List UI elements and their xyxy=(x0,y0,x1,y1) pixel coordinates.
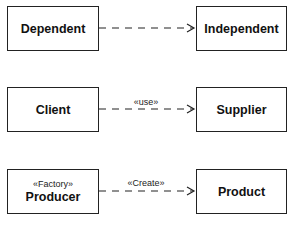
class-producer[interactable]: «Factory» Producer xyxy=(7,169,99,214)
class-dependent[interactable]: Dependent xyxy=(7,6,99,51)
dependency-label-use: «use» xyxy=(134,97,159,107)
class-name: Product xyxy=(218,185,265,199)
dependency-label-create: «Create» xyxy=(127,178,164,188)
class-name: Independent xyxy=(204,22,278,36)
class-independent[interactable]: Independent xyxy=(196,6,287,51)
class-product[interactable]: Product xyxy=(196,169,287,214)
stereotype-label: «Factory» xyxy=(33,179,73,189)
class-supplier[interactable]: Supplier xyxy=(196,87,287,132)
class-name: Producer xyxy=(26,190,81,204)
class-name: Supplier xyxy=(216,103,266,117)
class-name: Dependent xyxy=(21,22,86,36)
class-name: Client xyxy=(36,103,71,117)
class-client[interactable]: Client xyxy=(7,87,99,132)
